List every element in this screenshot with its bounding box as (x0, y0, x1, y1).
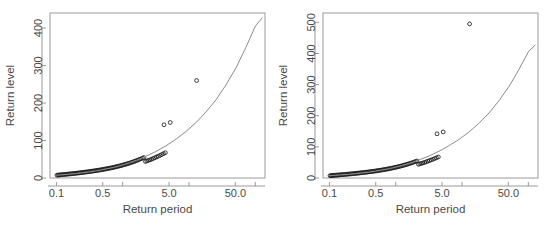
data-point (195, 79, 199, 83)
fitted-curve (57, 18, 262, 176)
data-point (435, 132, 439, 136)
x-axis-title: Return period (396, 203, 466, 215)
plot-frame (50, 13, 265, 178)
x-axis-title: Return period (123, 203, 193, 215)
return-level-plot-left: 0.10.55.050.0Return period0100200300400R… (0, 0, 273, 234)
y-tick-label: 100 (32, 131, 44, 149)
data-point (468, 22, 472, 26)
data-point (162, 123, 166, 127)
x-tick-label: 5.0 (434, 187, 449, 199)
return-level-plot-right: 0.10.55.050.0Return period01002003004005… (273, 0, 546, 234)
x-tick-label: 0.1 (49, 187, 64, 199)
y-tick-label: 300 (32, 56, 44, 74)
y-tick-label: 200 (305, 107, 317, 125)
point-series (55, 151, 167, 177)
x-tick-label: 0.5 (95, 187, 110, 199)
fitted-curve (330, 45, 535, 176)
x-tick-label: 50.0 (225, 187, 246, 199)
y-axis-title: Return level (4, 65, 16, 126)
point-series (435, 22, 471, 136)
y-tick-label: 400 (32, 19, 44, 37)
x-tick-label: 50.0 (498, 187, 519, 199)
y-tick-label: 300 (305, 75, 317, 93)
plot-canvas: 0.10.55.050.0Return period01002003004005… (273, 0, 546, 234)
y-tick-label: 100 (305, 138, 317, 156)
data-point (441, 130, 445, 134)
plot-canvas: 0.10.55.050.0Return period0100200300400R… (0, 0, 273, 234)
point-series (162, 79, 198, 127)
x-tick-label: 0.5 (368, 187, 383, 199)
data-layer (328, 22, 535, 178)
x-tick-label: 0.1 (322, 187, 337, 199)
y-tick-label: 400 (305, 44, 317, 62)
y-axis-title: Return level (277, 65, 289, 126)
plot-frame (323, 13, 538, 178)
data-layer (55, 18, 262, 178)
y-tick-label: 0 (32, 175, 44, 181)
y-tick-label: 200 (32, 94, 44, 112)
return-level-figure: 0.10.55.050.0Return period0100200300400R… (0, 0, 546, 234)
data-point (168, 121, 172, 125)
y-tick-label: 500 (305, 13, 317, 31)
y-tick-label: 0 (305, 175, 317, 181)
x-tick-label: 5.0 (161, 187, 176, 199)
